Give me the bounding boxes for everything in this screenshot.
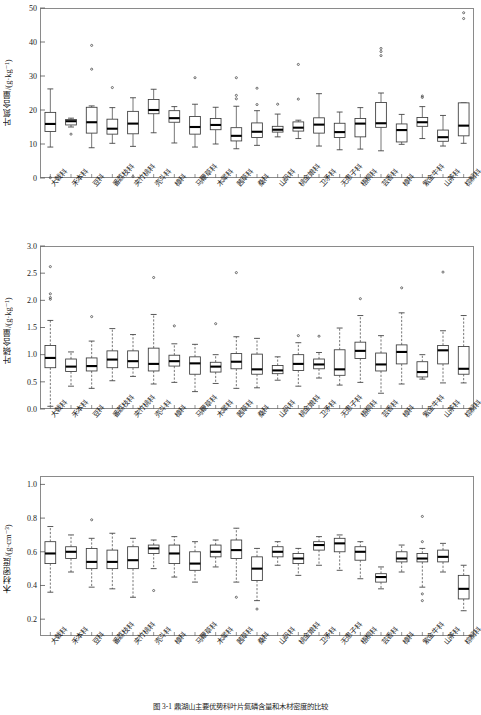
boxplot-item — [231, 272, 242, 389]
y-tick-label: 0.8 — [27, 514, 37, 523]
boxplot-item — [293, 548, 304, 575]
boxplot-item — [107, 533, 118, 589]
boxplot-item — [66, 535, 77, 572]
boxplot-item — [190, 542, 201, 582]
boxplot-item — [169, 537, 180, 577]
boxplot-item — [128, 335, 139, 377]
y-tick-label: 0 — [33, 174, 37, 183]
boxplot-item — [45, 89, 56, 179]
boxplot-item — [396, 545, 407, 572]
boxplot-item — [458, 12, 469, 144]
boxplot-item — [355, 298, 366, 383]
boxplot-item — [190, 344, 201, 391]
boxplot-item — [314, 335, 325, 378]
boxplot-item — [231, 77, 242, 149]
y-tick-label: 1.0 — [27, 350, 37, 359]
boxplot-item — [272, 103, 283, 137]
boxplot-item — [293, 63, 304, 138]
boxplot-item — [107, 329, 118, 381]
boxplot-item — [66, 352, 77, 386]
boxplot-item — [190, 77, 201, 147]
boxplot-item — [376, 47, 387, 150]
boxplot-item — [355, 108, 366, 149]
boxplot-item — [231, 528, 242, 598]
boxplot-item — [314, 537, 325, 566]
y-tick-label: 40 — [29, 38, 37, 47]
y-tick-label: 10 — [29, 140, 37, 149]
y-tick-label: 2.0 — [27, 296, 37, 305]
boxplot-item — [86, 316, 97, 389]
figure-page: 叶氮含量/(g·kg⁻¹) 01020304050 大戟科禾本科豆科番荔枝科夹竹… — [0, 0, 481, 715]
boxplot-item — [252, 87, 263, 145]
panel-leaf-nitrogen: 叶氮含量/(g·kg⁻¹) 01020304050 大戟科禾本科豆科番荔枝科夹竹… — [0, 0, 481, 238]
boxplot-item — [396, 114, 407, 144]
boxplot-item — [169, 107, 180, 143]
boxplot-item — [458, 316, 469, 383]
y-tick-label: 30 — [29, 72, 37, 81]
figure-caption: 图 3-1 鼎湖山主要优势科叶片氮磷含量和木材密度的比较 — [0, 700, 481, 711]
boxplot-item — [210, 540, 221, 567]
x-axis-labels-a: 大戟科禾本科豆科番荔枝科夹竹桃科壳斗科樟科马鞭草科木犀科茜草科桑科山矾科桃金娘科… — [40, 180, 474, 236]
y-tick-label: 0.5 — [27, 378, 37, 387]
boxplot-item — [148, 276, 159, 384]
panel-leaf-phosphorus: 叶磷含量/(g·kg⁻¹) 0.00.51.01.52.02.53.0 大戟科禾… — [0, 238, 481, 468]
boxplot-item — [66, 118, 77, 135]
y-tick-label: 0.2 — [27, 615, 37, 624]
boxplot-item — [210, 323, 221, 384]
boxplot-item — [45, 266, 56, 407]
y-tick-label: 3.0 — [27, 242, 37, 251]
boxplot-item — [210, 107, 221, 144]
y-tick-label: 0.6 — [27, 548, 37, 557]
boxplot-item — [86, 44, 97, 147]
boxplot-item — [293, 335, 304, 387]
boxplot-item — [458, 565, 469, 610]
y-tick-label: 50 — [29, 4, 37, 13]
boxplot-item — [355, 542, 366, 579]
boxplot-item — [334, 535, 345, 570]
boxplot-item — [86, 519, 97, 587]
y-tick-label: 0.0 — [27, 405, 37, 414]
x-axis-labels-b: 大戟科禾本科豆科番荔枝科夹竹桃科壳斗科樟科马鞭草科木犀科茜草科桑科山矾科桃金娘科… — [40, 411, 474, 467]
y-tick-label: 1.0 — [27, 480, 37, 489]
boxplot-item — [148, 540, 159, 592]
boxplot-item — [252, 548, 263, 610]
boxplot-item — [417, 95, 428, 139]
boxplot-item — [148, 89, 159, 133]
x-axis-labels-c: 大戟科禾本科豆科番荔枝科夹竹桃科壳斗科樟科马鞭草科木犀科茜草科桑科山矾科桃金娘科… — [40, 638, 474, 694]
boxplot-item — [417, 355, 428, 379]
boxplot-item — [417, 515, 428, 601]
boxplot-item — [376, 336, 387, 394]
boxplot-item — [438, 115, 449, 146]
boxplot-item — [314, 94, 325, 146]
boxplot-item — [438, 271, 449, 383]
boxplot-item — [396, 287, 407, 384]
boxplot-item — [334, 112, 345, 150]
boxplot-item — [272, 357, 283, 380]
y-tick-label: 0.4 — [27, 581, 37, 590]
boxplot-item — [169, 325, 180, 383]
boxplot-item — [334, 328, 345, 385]
y-tick-label: 1.5 — [27, 323, 37, 332]
y-tick-label: 2.5 — [27, 269, 37, 278]
boxplot-item — [272, 542, 283, 566]
boxplot-item — [45, 527, 56, 593]
boxplot-item — [438, 543, 449, 572]
y-tick-label: 20 — [29, 106, 37, 115]
boxplot-item — [376, 567, 387, 589]
panel-wood-density: 木材密度/(g·cm⁻³) 0.20.40.60.81.0 大戟科禾本科豆科番荔… — [0, 468, 481, 696]
boxplot-item — [107, 87, 118, 144]
boxplot-item — [252, 338, 263, 387]
boxplot-item — [128, 538, 139, 597]
